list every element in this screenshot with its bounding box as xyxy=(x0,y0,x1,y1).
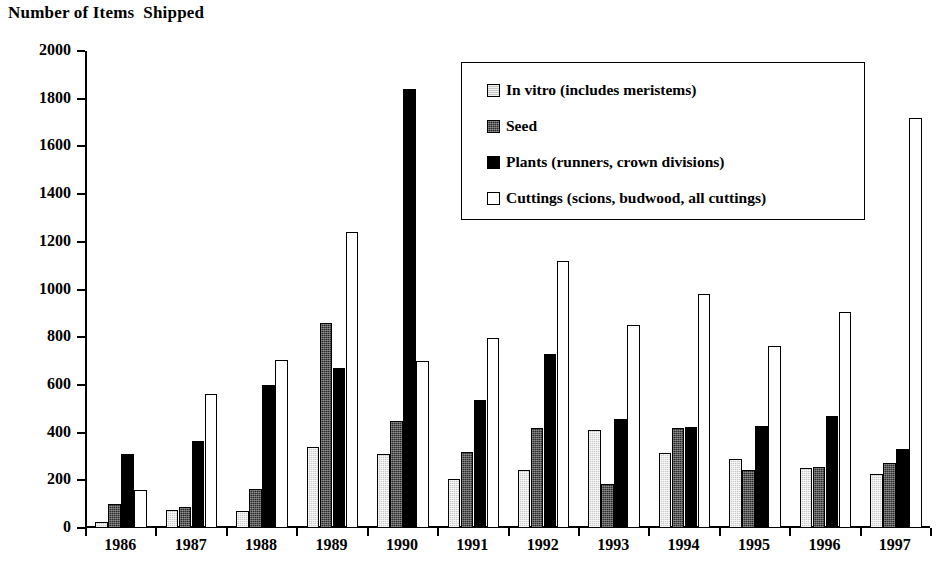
y-axis-tick-label: 1800 xyxy=(11,90,71,106)
bar-cuttings-1994 xyxy=(698,294,711,528)
bar-seed-1994 xyxy=(672,428,685,528)
y-axis-tick-label: 200 xyxy=(11,471,71,487)
bar-seed-1995 xyxy=(742,470,755,528)
x-axis-tick xyxy=(789,528,791,536)
legend-swatch-plants-icon xyxy=(487,156,500,169)
bar-cuttings-1991 xyxy=(487,338,500,528)
bar-cuttings-1989 xyxy=(346,232,359,528)
bar-seed-1992 xyxy=(531,428,544,528)
y-axis-tick xyxy=(77,50,85,52)
x-axis-tick-label-1993: 1993 xyxy=(578,536,648,554)
x-axis-tick-label-1997: 1997 xyxy=(860,536,930,554)
y-axis-tick xyxy=(77,384,85,386)
legend-item: In vitro (includes meristems) xyxy=(487,81,696,99)
bar-seed-1991 xyxy=(461,452,474,528)
y-axis-tick xyxy=(77,432,85,434)
bar-plants-1988 xyxy=(262,385,275,528)
bar-cuttings-1988 xyxy=(275,360,288,528)
bar-invitro-1990 xyxy=(377,454,390,528)
x-axis-tick xyxy=(860,528,862,536)
y-axis-tick-label: 1200 xyxy=(11,233,71,249)
y-axis-tick xyxy=(77,98,85,100)
y-axis-tick xyxy=(77,479,85,481)
bar-plants-1992 xyxy=(544,354,557,528)
bar-invitro-1986 xyxy=(95,522,108,528)
chart-title: Number of Items Shipped xyxy=(8,3,204,23)
bar-plants-1991 xyxy=(474,400,487,528)
x-axis-tick-label-1989: 1989 xyxy=(296,536,366,554)
y-axis-tick xyxy=(77,241,85,243)
bar-plants-1987 xyxy=(192,441,205,528)
y-axis-tick-label: 2000 xyxy=(11,42,71,58)
bar-plants-1997 xyxy=(896,449,909,528)
x-axis-tick xyxy=(155,528,157,536)
bar-group-1997 xyxy=(860,51,930,528)
x-axis-tick-label-1996: 1996 xyxy=(789,536,859,554)
bar-cuttings-1992 xyxy=(557,261,570,528)
bar-cuttings-1990 xyxy=(416,361,429,528)
bar-invitro-1989 xyxy=(307,447,320,528)
bar-group-1990 xyxy=(367,51,437,528)
legend-label-plants: Plants (runners, crown divisions) xyxy=(506,153,724,171)
bar-cuttings-1986 xyxy=(134,490,147,528)
bar-cuttings-1996 xyxy=(839,312,852,528)
bar-seed-1988 xyxy=(249,489,262,528)
y-axis-tick xyxy=(77,289,85,291)
y-axis-tick xyxy=(77,336,85,338)
y-axis-tick-label: 0 xyxy=(11,519,71,535)
y-axis-tick xyxy=(77,193,85,195)
bar-plants-1990 xyxy=(403,89,416,528)
x-axis-tick-label-1988: 1988 xyxy=(226,536,296,554)
bar-cuttings-1993 xyxy=(627,325,640,528)
bar-cuttings-1997 xyxy=(909,118,922,528)
bar-invitro-1994 xyxy=(659,453,672,528)
bar-seed-1987 xyxy=(179,507,192,528)
bar-seed-1997 xyxy=(883,463,896,528)
bar-seed-1996 xyxy=(813,467,826,528)
legend-swatch-invitro-icon xyxy=(487,84,500,97)
x-axis-tick xyxy=(508,528,510,536)
y-axis-tick xyxy=(77,145,85,147)
bar-group-1986 xyxy=(85,51,155,528)
bar-group-1987 xyxy=(155,51,225,528)
x-axis-tick xyxy=(437,528,439,536)
bar-plants-1994 xyxy=(685,427,698,528)
bar-invitro-1988 xyxy=(236,511,249,528)
legend-label-invitro: In vitro (includes meristems) xyxy=(506,81,696,99)
x-axis-tick-label-1995: 1995 xyxy=(719,536,789,554)
chart-legend: In vitro (includes meristems) Seed Plant… xyxy=(461,62,865,220)
y-axis-tick-label: 1000 xyxy=(11,281,71,297)
bar-plants-1993 xyxy=(614,419,627,528)
x-axis-tick-label-1992: 1992 xyxy=(508,536,578,554)
bar-seed-1993 xyxy=(601,484,614,528)
y-axis-tick-label: 1400 xyxy=(11,185,71,201)
y-axis-tick xyxy=(77,527,85,529)
x-axis-tick-label-1990: 1990 xyxy=(367,536,437,554)
legend-label-seed: Seed xyxy=(506,117,537,135)
x-axis-tick-label-1986: 1986 xyxy=(85,536,155,554)
bar-group-1989 xyxy=(296,51,366,528)
bar-cuttings-1995 xyxy=(768,346,781,528)
x-axis-tick xyxy=(648,528,650,536)
legend-swatch-seed-icon xyxy=(487,120,500,133)
x-axis-tick xyxy=(296,528,298,536)
x-axis-tick xyxy=(930,528,932,536)
bar-invitro-1991 xyxy=(448,479,461,528)
legend-item: Plants (runners, crown divisions) xyxy=(487,153,724,171)
y-axis-tick-label: 600 xyxy=(11,376,71,392)
bar-plants-1996 xyxy=(826,416,839,528)
x-axis-tick xyxy=(367,528,369,536)
x-axis-tick xyxy=(719,528,721,536)
bar-seed-1990 xyxy=(390,421,403,528)
bar-invitro-1996 xyxy=(800,468,813,528)
bar-invitro-1987 xyxy=(166,510,179,528)
x-axis-tick xyxy=(578,528,580,536)
bar-seed-1986 xyxy=(108,504,121,528)
legend-item: Cuttings (scions, budwood, all cuttings) xyxy=(487,189,766,207)
bar-invitro-1992 xyxy=(518,470,531,528)
x-axis-tick xyxy=(85,528,87,536)
bar-cuttings-1987 xyxy=(205,394,218,528)
x-axis-tick xyxy=(226,528,228,536)
legend-item: Seed xyxy=(487,117,537,135)
bar-plants-1995 xyxy=(755,426,768,528)
